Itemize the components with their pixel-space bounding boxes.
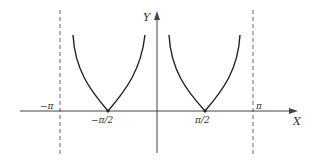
graph-canvas <box>0 0 312 161</box>
curve-left-branch <box>73 35 145 111</box>
x-axis-arrow-icon <box>289 108 298 114</box>
vertex-half-pi <box>204 110 207 113</box>
y-axis-arrow-icon <box>154 11 160 20</box>
tick-label-neg-pi: −π <box>40 102 53 111</box>
tick-label-neg-half-pi: −π/2 <box>91 116 113 125</box>
tick-label-half-pi: π/2 <box>195 116 210 125</box>
tick-label-pi: π <box>256 102 262 111</box>
vertex-neg-half-pi <box>107 110 110 113</box>
x-axis-label: X <box>293 116 301 127</box>
y-axis-label: Y <box>143 12 150 23</box>
curve-right-branch <box>169 35 240 111</box>
